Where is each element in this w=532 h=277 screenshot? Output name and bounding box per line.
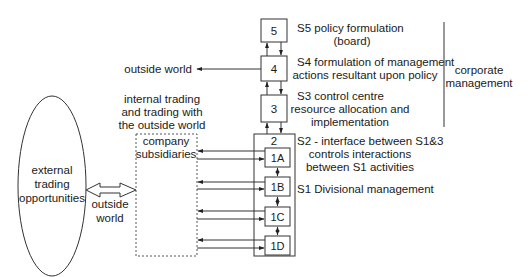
svg-text:the outside world: the outside world bbox=[119, 119, 206, 131]
svg-text:3: 3 bbox=[271, 103, 277, 115]
svg-text:controls interactions: controls interactions bbox=[309, 148, 412, 160]
svg-text:corporate: corporate bbox=[455, 64, 504, 76]
double-arrow-icon bbox=[86, 183, 136, 197]
svg-text:(board): (board) bbox=[333, 35, 370, 47]
subsidiaries-line-1: company bbox=[143, 135, 190, 147]
s3-description: S3 control centre resource allocation an… bbox=[291, 90, 410, 128]
division-1a-box: 1A bbox=[265, 148, 290, 167]
svg-text:internal trading: internal trading bbox=[124, 93, 200, 105]
outside-world-top-label: outside world bbox=[124, 63, 192, 75]
company-subsidiaries-box: company subsidiaries bbox=[136, 134, 197, 256]
svg-text:implementation: implementation bbox=[311, 116, 389, 128]
s2-description: S2 - interface between S1&3 controls int… bbox=[297, 135, 443, 173]
division-1c-box: 1C bbox=[265, 207, 290, 226]
ellipse-line-1: external bbox=[32, 164, 73, 176]
s4-description: S4 formulation of management actions res… bbox=[292, 56, 455, 81]
internal-trading-label: internal trading and trading with the ou… bbox=[119, 93, 206, 131]
svg-text:1B: 1B bbox=[271, 181, 284, 193]
svg-text:S2 - interface between S1&3: S2 - interface between S1&3 bbox=[297, 135, 443, 147]
system-3-box: 3 bbox=[261, 95, 287, 122]
svg-text:1D: 1D bbox=[270, 240, 284, 252]
system-4-box: 4 bbox=[261, 56, 287, 81]
svg-text:between S1 activities: between S1 activities bbox=[306, 161, 414, 173]
division-1b-box: 1B bbox=[265, 177, 290, 196]
svg-text:actions resultant upon policy: actions resultant upon policy bbox=[292, 69, 437, 81]
svg-text:S5 policy formulation: S5 policy formulation bbox=[297, 22, 404, 34]
system-5-box: 5 bbox=[261, 19, 287, 42]
svg-text:management: management bbox=[445, 77, 513, 89]
svg-text:1C: 1C bbox=[270, 211, 284, 223]
subsidiaries-line-2: subsidiaries bbox=[136, 148, 197, 160]
outside-world-bottom-line-2: world bbox=[95, 212, 123, 224]
ellipse-line-3: opportunities bbox=[19, 192, 85, 204]
svg-text:S4 formulation of management: S4 formulation of management bbox=[297, 56, 455, 68]
s5-description: S5 policy formulation (board) bbox=[297, 22, 404, 47]
svg-text:and trading with: and trading with bbox=[121, 106, 202, 118]
svg-text:resource allocation and: resource allocation and bbox=[291, 103, 410, 115]
ellipse-line-2: trading bbox=[34, 178, 69, 190]
external-trading-ellipse: external trading opportunities bbox=[18, 96, 86, 276]
svg-text:S3 control centre: S3 control centre bbox=[297, 90, 384, 102]
svg-text:4: 4 bbox=[271, 63, 278, 75]
svg-text:5: 5 bbox=[271, 25, 277, 37]
svg-text:2: 2 bbox=[271, 135, 277, 147]
svg-text:1A: 1A bbox=[271, 152, 285, 164]
division-1d-box: 1D bbox=[265, 236, 290, 255]
corporate-management-label: corporate management bbox=[445, 64, 513, 89]
viable-system-model-diagram: external trading opportunities outside w… bbox=[0, 0, 532, 277]
s1-description: S1 Divisional management bbox=[297, 183, 435, 195]
outside-world-bottom-line-1: outside bbox=[91, 198, 128, 210]
